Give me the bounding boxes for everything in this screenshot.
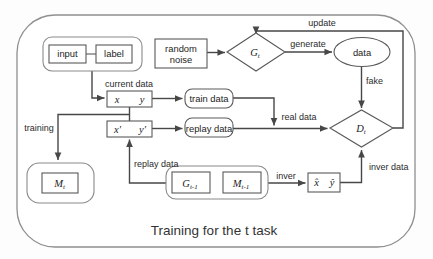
replay-data-label: replay data (186, 123, 233, 134)
data-node-label: data (353, 47, 372, 58)
edge-label-inver: inver (276, 171, 296, 181)
edge-label-current-data: current data (105, 79, 153, 89)
edge-label-training: training (24, 123, 54, 133)
diagram-caption: Training for the t task (151, 223, 278, 238)
inver-pair-box (308, 173, 340, 192)
label-box-label: label (104, 48, 124, 59)
edge-label-fake: fake (366, 76, 383, 86)
inver-x-label: x̂ (313, 177, 319, 188)
random-noise-line1: random (165, 43, 197, 54)
edge-label-generate: generate (290, 39, 326, 49)
current-x-label: x (114, 94, 120, 105)
edge-label-real-data: real data (281, 112, 316, 122)
training-flow-diagram: input label random noise Gt data Dt x y … (0, 0, 433, 259)
replay-y-label: y′ (138, 124, 147, 135)
edge-label-update: update (308, 18, 336, 28)
inver-y-label: ŷ (329, 177, 335, 188)
input-box-label: input (57, 48, 78, 59)
random-noise-line2: noise (170, 54, 192, 65)
train-data-label: train data (189, 93, 229, 104)
replay-x-label: x′ (113, 124, 122, 135)
diagram-canvas: input label random noise Gt data Dt x y … (0, 0, 433, 259)
edge-label-replay-data: replay data (134, 159, 179, 169)
current-y-label: y (139, 94, 145, 105)
edge-label-inver-data: inver data (369, 162, 409, 172)
